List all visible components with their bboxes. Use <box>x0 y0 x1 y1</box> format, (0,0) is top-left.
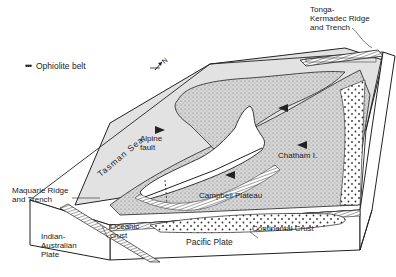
label-alpine-fault: Alpine fault <box>140 134 162 152</box>
label-tonga-kermadec: Tonga- Kermadec Ridge and Trench <box>310 5 370 32</box>
north-arrow-icon <box>150 62 162 70</box>
label-oceanic-crust: Oceanic crust <box>110 222 139 240</box>
label-continental-crust: Continental Crust <box>252 224 314 233</box>
legend-ophiolite-symbol: ••• <box>25 62 31 71</box>
label-pacific-plate: Pacific Plate <box>186 238 233 247</box>
label-chatham-island: Chatham I. <box>278 151 317 160</box>
label-macquarie-ridge: Maquarie Ridge and Trench <box>12 186 68 204</box>
label-indian-australian-plate: Indian- Australian Plate <box>41 232 77 259</box>
label-campbell-plateau: Campbell Plateau <box>199 191 262 200</box>
legend-ophiolite-label: Ophiolite belt <box>36 62 86 71</box>
